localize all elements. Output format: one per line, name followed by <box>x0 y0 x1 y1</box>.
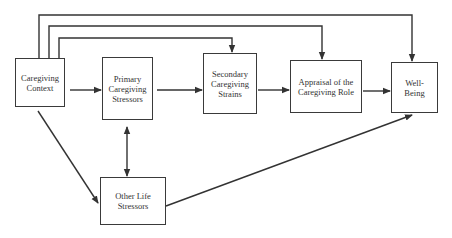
diagram-canvas: Caregiving Context Primary Caregiving St… <box>0 0 452 238</box>
node-other-life-stressors: Other Life Stressors <box>100 177 166 225</box>
connector-lines <box>0 0 452 238</box>
arrow-context-to-appraisal <box>49 26 322 59</box>
arrow-context-to-other <box>38 111 98 203</box>
node-primary-caregiving-stressors: Primary Caregiving Stressors <box>102 57 153 120</box>
node-caregiving-context: Caregiving Context <box>15 58 65 107</box>
node-secondary-caregiving-strains: Secondary Caregiving Strains <box>203 53 257 114</box>
node-well-being: Well- Being <box>391 62 438 113</box>
arrow-other-to-wellbeing <box>166 115 412 206</box>
node-appraisal-of-caregiving-role: Appraisal of the Caregiving Role <box>290 60 362 113</box>
